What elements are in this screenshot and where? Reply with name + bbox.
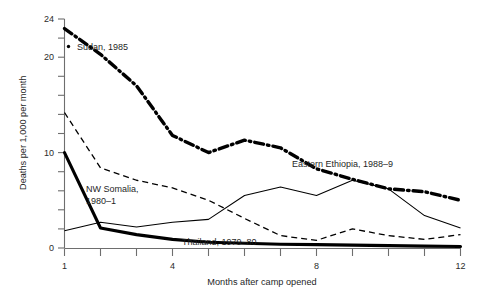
y-tick-label-24: 24 <box>44 14 54 24</box>
y-tick-label-20: 20 <box>44 52 54 62</box>
series-label-eastern-ethiopia: Eastern Ethiopia, 1988–9 <box>292 159 393 169</box>
x-tick-label-12: 12 <box>455 261 465 271</box>
y-tick-label-10: 10 <box>44 148 54 158</box>
x-tick-label-1: 1 <box>62 261 67 271</box>
chart-svg: 24 20 10 0 Deaths per 1,000 per month <box>0 0 480 296</box>
sudan-label-dot-icon <box>67 45 70 48</box>
y-axis: 24 20 10 0 Deaths per 1,000 per month <box>18 14 65 253</box>
x-tick-label-4: 4 <box>170 261 175 271</box>
x-axis-title: Months after camp opened <box>207 277 316 287</box>
chart-figure: 24 20 10 0 Deaths per 1,000 per month <box>0 0 480 296</box>
series-line-nw-somalia <box>65 113 461 241</box>
x-axis: 1 4 8 12 Months after camp opened <box>62 249 466 288</box>
series-line-sudan <box>65 29 461 201</box>
series-group <box>65 29 461 247</box>
series-label-nw-somalia-line1: NW Somalia, <box>86 184 139 194</box>
x-tick-label-8: 8 <box>314 261 319 271</box>
x-axis-ticks <box>65 249 461 257</box>
series-label-sudan: Sudan, 1985 <box>77 42 128 52</box>
series-label-thailand: Thailand, 1979–80 <box>182 237 257 247</box>
y-axis-title: Deaths per 1,000 per month <box>18 76 28 190</box>
y-axis-ticks <box>58 19 65 248</box>
series-label-nw-somalia-line2: 1980–1 <box>86 196 116 206</box>
series-line-thailand <box>65 153 461 247</box>
y-tick-label-0: 0 <box>49 243 54 253</box>
